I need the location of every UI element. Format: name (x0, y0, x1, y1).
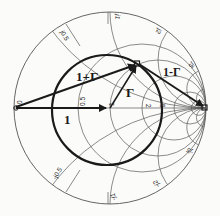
tick-r-5: 5 (159, 104, 166, 108)
tick-x-j5: j5 (187, 60, 197, 70)
tick-r-2: 2 (145, 104, 152, 108)
reactance-arc-j2 (158, 12, 220, 108)
label-one-plus-gamma: 1+Γ (76, 69, 98, 84)
smith-chart-diagram: 1+Γ Γ 1-Γ 1 0 0.5 1 2 5 j0.5 j1 j2 j5 -j… (0, 0, 220, 216)
label-gamma: Γ (126, 85, 134, 100)
tick-r-1: 1 (108, 102, 115, 106)
smith-chart-svg: 1+Γ Γ 1-Γ 1 0 0.5 1 2 5 j0.5 j1 j2 j5 -j… (0, 0, 220, 216)
label-one-minus-gamma: 1-Γ (163, 65, 181, 79)
tick-x-neg-j2: -j2 (151, 178, 162, 189)
tick-x-neg-j1: -j1 (109, 192, 118, 201)
label-one: 1 (64, 112, 71, 127)
tick-x-neg-j0.5: -j0.5 (51, 166, 64, 181)
tick-r-0.5: 0.5 (79, 97, 86, 106)
tick-line-neg-j0.5 (66, 170, 80, 192)
tick-r-0: 0 (16, 100, 23, 104)
tick-x-j1: j1 (113, 13, 122, 21)
gamma-magnitude-circle (52, 55, 162, 165)
